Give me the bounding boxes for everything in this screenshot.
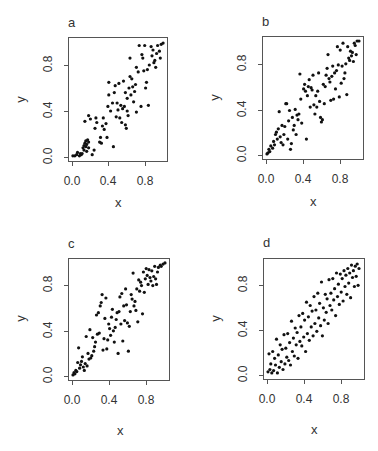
data-point <box>156 44 159 47</box>
x-tick <box>109 381 110 385</box>
data-point <box>81 355 84 358</box>
data-point <box>293 124 296 127</box>
data-point <box>319 324 322 327</box>
data-point <box>121 339 124 342</box>
panel-a: a 0.0 0.4 0.8 0.0 0.4 0.8 x y <box>0 0 189 225</box>
x-tick <box>303 160 304 164</box>
data-point <box>126 97 129 100</box>
data-point <box>132 304 135 307</box>
data-point <box>132 272 135 275</box>
data-point <box>125 303 128 306</box>
data-point <box>291 116 294 119</box>
data-point <box>301 312 304 315</box>
data-point <box>109 109 112 112</box>
data-point <box>101 349 104 352</box>
data-point <box>122 304 125 307</box>
data-point <box>339 49 342 52</box>
data-point <box>114 84 117 87</box>
data-point <box>133 300 136 303</box>
data-point <box>85 335 88 338</box>
panel-b: b 0.0 0.4 0.8 0.0 0.4 0.8 x y <box>189 0 378 225</box>
y-tick-label: 0.4 <box>235 101 249 118</box>
data-point <box>311 310 314 313</box>
data-point <box>101 124 104 127</box>
data-point <box>277 127 280 130</box>
data-point <box>300 344 303 347</box>
data-point <box>325 74 328 77</box>
scatter-points <box>0 225 189 451</box>
data-point <box>77 346 80 349</box>
data-point <box>338 95 341 98</box>
data-point <box>332 298 335 301</box>
y-tick <box>259 330 263 331</box>
data-point <box>142 69 145 72</box>
data-point <box>137 70 140 73</box>
data-point <box>147 268 150 271</box>
data-point <box>306 94 309 97</box>
data-point <box>80 360 83 363</box>
x-tick <box>341 380 342 384</box>
data-point <box>126 109 129 112</box>
data-point <box>117 352 120 355</box>
data-point <box>125 127 128 130</box>
data-point <box>312 334 315 337</box>
data-point <box>304 350 307 353</box>
x-tick <box>108 162 109 166</box>
data-point <box>272 140 275 143</box>
data-point <box>348 59 351 62</box>
data-point <box>287 359 290 362</box>
data-point <box>153 59 156 62</box>
data-point <box>127 86 130 89</box>
data-point <box>91 153 94 156</box>
data-point <box>272 369 275 372</box>
data-point <box>336 295 339 298</box>
data-point <box>326 67 329 70</box>
data-point <box>324 85 327 88</box>
data-point <box>267 352 270 355</box>
data-point <box>113 341 116 344</box>
data-point <box>107 322 110 325</box>
x-tick-label: 0.0 <box>259 392 276 406</box>
data-point <box>120 292 123 295</box>
data-point <box>357 39 360 42</box>
data-point <box>83 120 86 123</box>
y-tick-label: 0.8 <box>41 56 55 73</box>
data-point <box>127 114 130 117</box>
data-point <box>313 112 316 115</box>
data-point <box>119 322 122 325</box>
data-point <box>281 368 284 371</box>
data-point <box>316 292 319 295</box>
data-point <box>346 267 349 270</box>
data-point <box>145 81 148 84</box>
data-point <box>286 332 289 335</box>
data-point <box>105 136 108 139</box>
y-tick-label: 0.0 <box>41 367 55 384</box>
x-tick-label: 0.4 <box>295 172 312 186</box>
data-point <box>348 271 351 274</box>
data-point <box>118 295 121 298</box>
data-point <box>147 104 150 107</box>
data-point <box>103 317 106 320</box>
y-tick-label: 0.0 <box>236 366 250 383</box>
data-point <box>128 57 131 60</box>
data-point <box>149 279 152 282</box>
scatter-points <box>189 0 378 225</box>
data-point <box>276 371 279 374</box>
data-point <box>93 127 96 130</box>
data-point <box>311 74 314 77</box>
data-point <box>326 53 329 56</box>
y-tick-label: 0.4 <box>41 102 55 119</box>
data-point <box>297 314 300 317</box>
data-point <box>271 350 274 353</box>
data-point <box>86 352 89 355</box>
data-point <box>350 54 353 57</box>
data-point <box>340 82 343 85</box>
y-tick <box>64 157 68 158</box>
data-point <box>329 292 332 295</box>
data-point <box>312 295 315 298</box>
data-point <box>163 261 166 264</box>
data-point <box>292 337 295 340</box>
data-point <box>289 363 292 366</box>
data-point <box>110 316 113 319</box>
data-point <box>159 57 162 60</box>
